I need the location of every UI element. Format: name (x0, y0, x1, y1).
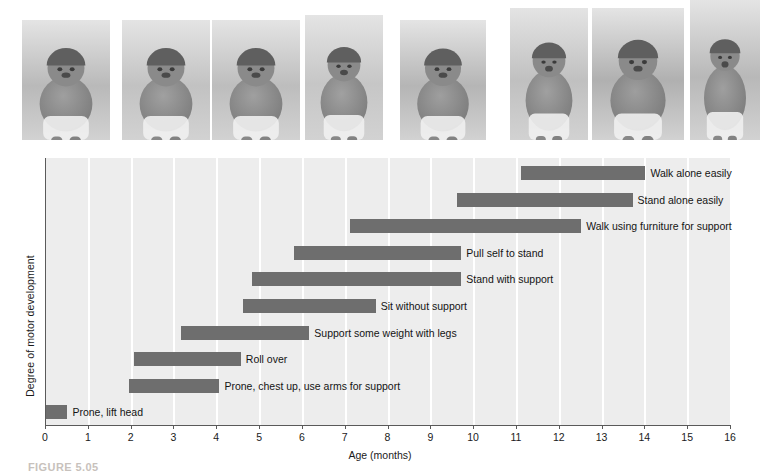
x-tick-label-12: 12 (547, 431, 571, 443)
x-tick-8 (388, 425, 389, 429)
x-tick-label-6: 6 (290, 431, 314, 443)
bar-label: Pull self to stand (466, 246, 543, 260)
x-tick-14 (644, 425, 645, 429)
photo-pull-self-to-stand (400, 20, 486, 140)
x-tick-3 (173, 425, 174, 429)
x-tick-label-5: 5 (247, 431, 271, 443)
y-axis-title: Degree of motor development (24, 216, 36, 436)
x-tick-label-1: 1 (76, 431, 100, 443)
photo-walk-with-support (592, 8, 684, 140)
x-tick-10 (473, 425, 474, 429)
bar-sit-without-support (243, 299, 376, 313)
x-tick-label-15: 15 (675, 431, 699, 443)
bar-roll-over (134, 352, 241, 366)
x-tick-label-2: 2 (119, 431, 143, 443)
x-tick-11 (516, 425, 517, 429)
x-tick-1 (88, 425, 89, 429)
bar-label: Roll over (246, 352, 287, 366)
x-tick-label-9: 9 (418, 431, 442, 443)
bar-label: Stand alone easily (638, 193, 724, 207)
bar-label: Prone, lift head (72, 405, 143, 419)
x-tick-5 (259, 425, 260, 429)
bar-label: Walk alone easily (650, 166, 731, 180)
x-tick-6 (302, 425, 303, 429)
x-tick-13 (602, 425, 603, 429)
infant-photo-strip (0, 0, 760, 150)
x-tick-7 (345, 425, 346, 429)
bar-label: Prone, chest up, use arms for support (224, 379, 400, 393)
plot-area: Walk alone easilyStand alone easilyWalk … (45, 158, 731, 425)
gridline-month-9 (430, 158, 432, 425)
x-tick-label-0: 0 (33, 431, 57, 443)
x-tick-label-4: 4 (204, 431, 228, 443)
x-tick-12 (559, 425, 560, 429)
bar-pull-self-to-stand (294, 246, 461, 260)
photo-prone-lift-head (22, 20, 110, 140)
x-tick-9 (430, 425, 431, 429)
x-tick-15 (687, 425, 688, 429)
bar-label: Sit without support (381, 299, 467, 313)
x-tick-2 (131, 425, 132, 429)
bar-label: Stand with support (466, 272, 553, 286)
x-axis-title: Age (months) (0, 449, 760, 461)
x-tick-label-8: 8 (376, 431, 400, 443)
x-tick-label-14: 14 (632, 431, 656, 443)
gridline-month-16 (730, 158, 732, 425)
x-tick-4 (216, 425, 217, 429)
bar-stand-alone-easily (457, 193, 633, 207)
x-tick-0 (45, 425, 46, 429)
motor-development-chart: Degree of motor development Walk alone e… (0, 150, 760, 474)
bar-prone-chest-up-use-arms-for-support (129, 379, 219, 393)
x-tick-label-10: 10 (461, 431, 485, 443)
gridline-month-1 (88, 158, 90, 425)
bar-walk-using-furniture-for-support (350, 219, 581, 233)
photo-crawl (212, 20, 300, 140)
photo-sit-without-support (305, 15, 383, 140)
bar-stand-with-support (252, 272, 462, 286)
x-tick-label-11: 11 (504, 431, 528, 443)
x-tick-label-13: 13 (590, 431, 614, 443)
bar-label: Support some weight with legs (314, 326, 456, 340)
figure-caption: FIGURE 5.05 (28, 461, 98, 473)
bar-walk-alone-easily (521, 166, 645, 180)
x-tick-16 (730, 425, 731, 429)
x-tick-label-16: 16 (718, 431, 742, 443)
bar-label: Walk using furniture for support (586, 219, 732, 233)
x-tick-label-3: 3 (161, 431, 185, 443)
bar-support-some-weight-with-legs (181, 326, 309, 340)
photo-stand-with-support (510, 8, 588, 140)
photo-walk-alone (690, 0, 760, 140)
photo-roll-over (122, 20, 210, 140)
bar-prone-lift-head (46, 405, 67, 419)
x-tick-label-7: 7 (333, 431, 357, 443)
